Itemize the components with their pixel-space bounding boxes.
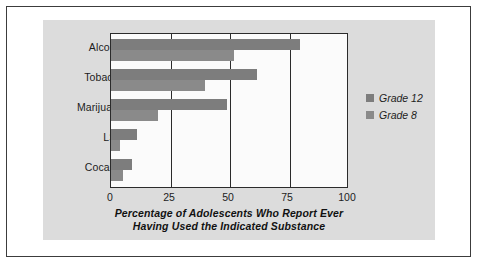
bar-alcohol-grade12 (111, 39, 300, 50)
legend-label-grade-8: Grade 8 (379, 109, 417, 121)
plot-inner (111, 34, 347, 187)
bar-chart: Alcohol Tobacco Marijuana LSD Cocaine (0, 0, 477, 263)
x-axis-tick-25: 25 (149, 191, 189, 203)
y-axis-label-marijuana: Marijuana (4, 101, 124, 113)
x-axis-title-line-2: Having Used the Indicated Substance (78, 220, 380, 233)
bar-marijuana-grade12 (111, 99, 227, 110)
bar-lsd-grade12 (111, 129, 137, 140)
y-axis-label-alcohol: Alcohol (4, 41, 124, 53)
bar-group-cocaine (111, 159, 347, 181)
plot-area (110, 33, 348, 188)
bar-cocaine-grade8 (111, 170, 123, 181)
legend-swatch-icon-grade-8 (366, 111, 374, 119)
bar-group-marijuana (111, 99, 347, 121)
figure: Alcohol Tobacco Marijuana LSD Cocaine (0, 0, 477, 263)
bar-tobacco-grade12 (111, 69, 257, 80)
bar-marijuana-grade8 (111, 110, 158, 121)
legend-item-grade-12: Grade 12 (366, 90, 423, 105)
x-axis-tick-50: 50 (208, 191, 248, 203)
bar-alcohol-grade8 (111, 50, 234, 61)
bar-group-lsd (111, 129, 347, 151)
x-axis-title: Percentage of Adolescents Who Report Eve… (78, 207, 380, 232)
x-axis-tick-100: 100 (327, 191, 367, 203)
bar-cocaine-grade12 (111, 159, 132, 170)
bar-group-tobacco (111, 69, 347, 91)
x-axis-tick-0: 0 (90, 191, 130, 203)
x-axis-title-line-1: Percentage of Adolescents Who Report Eve… (78, 207, 380, 220)
legend: Grade 12 Grade 8 (366, 90, 423, 124)
bar-lsd-grade8 (111, 140, 120, 151)
y-axis-label-lsd: LSD (4, 131, 124, 143)
legend-swatch-icon-grade-12 (366, 94, 374, 102)
bar-tobacco-grade8 (111, 80, 205, 91)
y-axis-label-cocaine: Cocaine (4, 161, 124, 173)
legend-label-grade-12: Grade 12 (379, 92, 423, 104)
y-axis-label-tobacco: Tobacco (4, 71, 124, 83)
x-axis-tick-75: 75 (267, 191, 307, 203)
legend-item-grade-8: Grade 8 (366, 107, 423, 122)
bar-group-alcohol (111, 39, 347, 61)
